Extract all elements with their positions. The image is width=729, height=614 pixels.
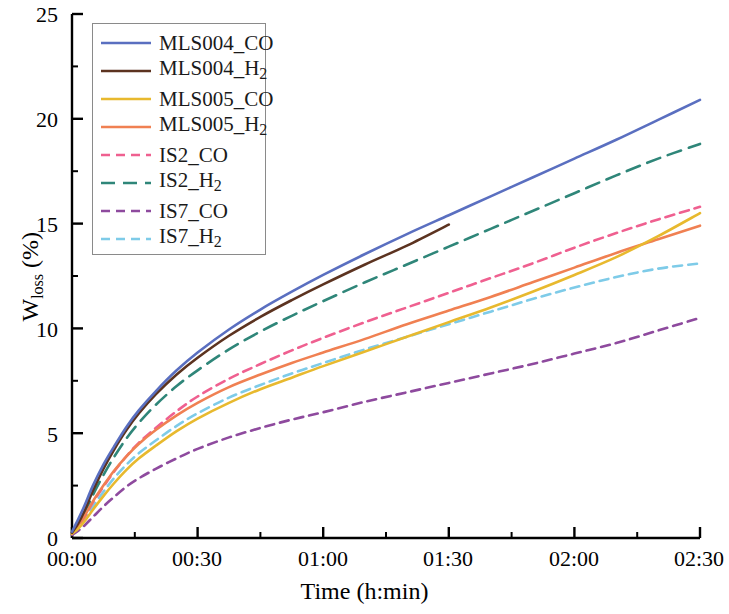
legend-swatch-icon <box>100 176 152 190</box>
legend-swatch-icon <box>100 64 152 78</box>
series-line-is7-co <box>72 318 700 535</box>
ytick-label-5: 5 <box>10 422 58 448</box>
xtick-label-0030: 00:30 <box>142 546 252 572</box>
legend-label-base: IS7_H <box>159 224 214 248</box>
legend-item-mls004-h2[interactable]: MLS004_H2 <box>93 57 265 85</box>
legend-label: MLS005_CO <box>159 89 273 110</box>
legend-label-base: MLS005_H <box>159 112 259 136</box>
legend-item-mls005-co[interactable]: MLS005_CO <box>93 85 265 113</box>
xtick-label-0230: 02:30 <box>644 546 729 572</box>
ytick-label-20: 20 <box>10 107 58 133</box>
xtick-label-0130: 01:30 <box>393 546 503 572</box>
legend-label-subscript: 2 <box>214 233 222 250</box>
legend-item-mls004-co[interactable]: MLS004_CO <box>93 29 265 57</box>
y-axis-title-base: W <box>17 299 43 322</box>
legend-label: IS7_CO <box>159 201 228 222</box>
legend-label-base: IS2_H <box>159 168 214 192</box>
xtick-label-0000: 00:00 <box>17 546 127 572</box>
legend-swatch-icon <box>100 204 152 218</box>
legend-label: MLS005_H2 <box>159 114 267 140</box>
legend-item-is2-h2[interactable]: IS2_H2 <box>93 169 265 197</box>
xtick-label-0200: 02:00 <box>519 546 629 572</box>
legend-item-is2-co[interactable]: IS2_CO <box>93 141 265 169</box>
legend-label: IS7_H2 <box>159 226 222 252</box>
legend-label-subscript: 2 <box>259 121 267 138</box>
legend-label-subscript: 2 <box>259 65 267 82</box>
legend-box: MLS004_COMLS004_H2MLS005_COMLS005_H2IS2_… <box>92 23 266 255</box>
legend-label: MLS004_H2 <box>159 58 267 84</box>
legend-label-base: MLS004_H <box>159 56 259 80</box>
legend-label-subscript: 2 <box>214 177 222 194</box>
y-axis-title-subscript: loss <box>29 274 46 299</box>
xtick-label-0100: 01:00 <box>268 546 378 572</box>
x-axis-title: Time (h:min) <box>0 578 729 605</box>
legend-label: MLS004_CO <box>159 33 273 54</box>
legend-item-is7-co[interactable]: IS7_CO <box>93 197 265 225</box>
y-axis-title: Wloss (%) <box>17 167 46 387</box>
legend-item-is7-h2[interactable]: IS7_H2 <box>93 225 265 253</box>
legend-item-mls005-h2[interactable]: MLS005_H2 <box>93 113 265 141</box>
legend-label: IS2_CO <box>159 145 228 166</box>
legend-swatch-icon <box>100 148 152 162</box>
legend-swatch-icon <box>100 120 152 134</box>
series-line-mls005-co <box>72 213 700 534</box>
y-axis-title-unit: (%) <box>17 232 43 274</box>
legend-label: IS2_H2 <box>159 170 222 196</box>
series-line-is7-h2 <box>72 263 700 533</box>
legend-swatch-icon <box>100 36 152 50</box>
ytick-label-25: 25 <box>10 2 58 28</box>
legend-swatch-icon <box>100 232 152 246</box>
legend-swatch-icon <box>100 92 152 106</box>
chart-figure: 25 20 15 10 5 0 00:00 00:30 01:00 01:30 … <box>0 0 729 614</box>
